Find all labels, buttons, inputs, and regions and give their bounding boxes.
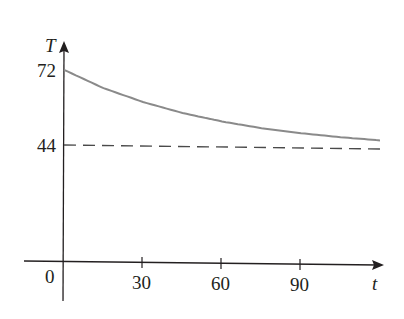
- chart: T 72 44 0 30 60 90 t: [0, 0, 404, 319]
- x-tick-30: 30: [132, 272, 151, 293]
- x-tick-90: 90: [290, 274, 309, 295]
- y-axis: [63, 48, 64, 301]
- asymptote-line: [64, 145, 381, 149]
- x-axis: [24, 261, 378, 265]
- x-axis-label: t: [372, 273, 378, 294]
- y-axis-label: T: [45, 35, 57, 56]
- origin-label: 0: [45, 266, 55, 287]
- x-tick-60: 60: [211, 273, 230, 294]
- y-tick-72: 72: [37, 60, 56, 81]
- y-tick-44: 44: [37, 135, 57, 156]
- temperature-curve: [64, 70, 380, 140]
